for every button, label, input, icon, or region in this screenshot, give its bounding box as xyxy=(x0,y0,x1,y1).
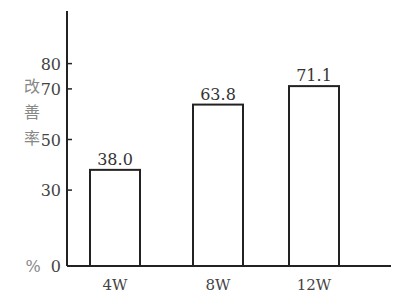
bar-chart: 030507080改善率%38.04W63.88W71.112W xyxy=(0,0,411,300)
bar-8w xyxy=(193,105,243,266)
value-label: 63.8 xyxy=(200,85,236,104)
y-tick-label: 50 xyxy=(41,131,61,150)
category-label: 12W xyxy=(297,276,332,294)
category-label: 4W xyxy=(103,276,129,294)
y-tick-label: 0 xyxy=(51,257,61,276)
y-tick-label: 80 xyxy=(41,55,61,74)
y-axis-unit: % xyxy=(25,257,40,276)
bar-12w xyxy=(289,86,339,266)
value-label: 38.0 xyxy=(97,150,133,169)
bar-4w xyxy=(90,170,140,266)
y-tick-label: 70 xyxy=(41,80,61,99)
y-tick-label: 30 xyxy=(41,181,61,200)
y-axis-label: 率 xyxy=(24,129,40,148)
y-axis-label: 善 xyxy=(24,103,40,122)
category-label: 8W xyxy=(206,276,232,294)
value-label: 71.1 xyxy=(296,66,332,85)
y-axis-label: 改 xyxy=(24,77,40,96)
